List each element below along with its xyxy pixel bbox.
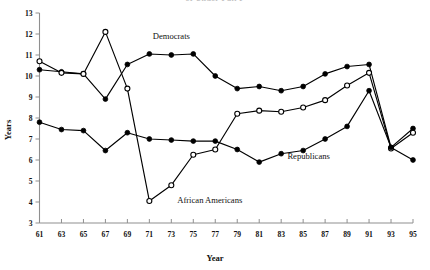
data-point	[147, 137, 152, 142]
data-point	[235, 147, 240, 152]
x-tick-label: 71	[146, 230, 154, 239]
x-tick-label: 83	[277, 230, 285, 239]
x-tick-label: 63	[58, 230, 66, 239]
y-axis: 345678910111213	[25, 9, 40, 228]
x-tick-label: 81	[255, 230, 263, 239]
data-point	[191, 139, 196, 144]
series-republicans	[37, 88, 415, 164]
x-tick-label: 73	[168, 230, 176, 239]
data-point	[169, 53, 174, 58]
y-tick-label: 8	[29, 114, 33, 123]
data-point	[213, 139, 218, 144]
data-point	[301, 105, 306, 110]
y-tick-label: 10	[25, 72, 33, 81]
chart-series-group	[37, 29, 416, 203]
y-tick-label: 9	[29, 93, 33, 102]
data-point	[213, 147, 218, 152]
data-point	[279, 109, 284, 114]
x-tick-label: 93	[387, 230, 395, 239]
data-point	[279, 151, 284, 156]
data-point	[323, 98, 328, 103]
data-point	[367, 70, 372, 75]
data-point	[59, 70, 64, 75]
data-point	[235, 111, 240, 116]
x-tick-label: 85	[299, 230, 307, 239]
x-tick-label: 75	[189, 230, 197, 239]
data-point	[367, 88, 372, 93]
data-point	[103, 97, 108, 102]
data-point	[257, 108, 262, 113]
y-tick-label: 7	[29, 135, 33, 144]
chart-container: of Under Full P 345678910111213 61636567…	[0, 0, 430, 270]
data-point	[323, 137, 328, 142]
series-african-americans	[37, 29, 416, 203]
data-point	[323, 72, 328, 77]
y-tick-label: 4	[29, 198, 33, 207]
data-point	[411, 158, 416, 163]
data-point	[125, 62, 130, 67]
data-point	[147, 52, 152, 57]
series-label-african-americans: African Americans	[177, 195, 243, 205]
data-point	[389, 145, 394, 150]
y-tick-label: 6	[29, 156, 33, 165]
x-tick-label: 61	[36, 230, 44, 239]
x-axis: 616365676971737577798183858789919395	[36, 219, 417, 239]
series-path	[40, 32, 414, 201]
x-tick-label: 67	[102, 230, 110, 239]
data-point	[59, 127, 64, 132]
data-point	[411, 130, 416, 135]
page-top-title: of Under Full P	[0, 0, 430, 1]
y-tick-label: 3	[29, 219, 33, 228]
data-point	[345, 83, 350, 88]
line-chart: 345678910111213 616365676971737577798183…	[0, 0, 430, 270]
data-point	[213, 74, 218, 79]
data-point	[345, 64, 350, 69]
data-point	[125, 86, 130, 91]
series-path	[40, 91, 414, 162]
data-point	[257, 160, 262, 165]
y-tick-label: 11	[25, 51, 32, 60]
x-tick-label: 77	[211, 230, 219, 239]
data-point	[125, 130, 130, 135]
data-point	[257, 84, 262, 89]
data-point	[191, 52, 196, 57]
data-point	[235, 86, 240, 91]
data-point	[169, 183, 174, 188]
data-point	[103, 148, 108, 153]
data-point	[37, 59, 42, 64]
x-tick-label: 87	[321, 230, 329, 239]
x-tick-label: 65	[80, 230, 88, 239]
series-democrats	[37, 52, 415, 150]
y-tick-label: 5	[29, 177, 33, 186]
data-point	[279, 88, 284, 93]
data-point	[37, 120, 42, 125]
data-point	[301, 84, 306, 89]
y-axis-title: Years	[3, 119, 13, 140]
data-point	[345, 124, 350, 129]
x-tick-label: 95	[409, 230, 417, 239]
x-tick-label: 69	[124, 230, 132, 239]
x-tick-label: 89	[343, 230, 351, 239]
series-path	[40, 54, 414, 147]
data-point	[37, 67, 42, 72]
series-label-democrats: Democrats	[153, 31, 191, 41]
data-point	[147, 198, 152, 203]
series-labels: DemocratsAfrican AmericansRepublicans	[153, 31, 331, 205]
data-point	[169, 138, 174, 143]
data-point	[103, 29, 108, 34]
data-point	[81, 71, 86, 76]
y-tick-label: 12	[25, 30, 33, 39]
y-tick-label: 13	[25, 9, 33, 18]
data-point	[81, 128, 86, 133]
x-tick-label: 91	[365, 230, 373, 239]
data-point	[367, 62, 372, 67]
series-label-republicans: Republicans	[287, 151, 330, 161]
x-tick-label: 79	[233, 230, 241, 239]
x-axis-title: Year	[206, 253, 223, 263]
data-point	[191, 152, 196, 157]
